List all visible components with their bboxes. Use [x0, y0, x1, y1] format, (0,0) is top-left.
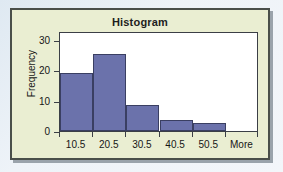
- x-axis: 10.520.530.540.550.5More: [59, 132, 258, 158]
- bars-layer: [60, 33, 257, 131]
- x-tick-mark: [257, 132, 258, 137]
- y-tick-label: 30: [28, 36, 50, 46]
- x-tick-mark: [92, 132, 93, 137]
- x-tick-mark: [59, 132, 60, 137]
- chart-title: Histogram: [12, 16, 268, 28]
- x-tick-mark: [159, 132, 160, 137]
- y-axis: 0102030: [28, 32, 59, 132]
- x-tick-mark: [192, 132, 193, 137]
- histogram-chart-card: Histogram Frequency 0102030 10.520.530.5…: [10, 8, 270, 160]
- x-tick-label: 10.5: [66, 139, 85, 150]
- histogram-bar: [126, 105, 159, 131]
- x-tick-label: 40.5: [165, 139, 184, 150]
- y-tick-label: 20: [28, 66, 50, 76]
- histogram-bar: [60, 73, 93, 131]
- y-axis-title-container: Frequency: [14, 32, 28, 132]
- histogram-bar: [160, 120, 193, 131]
- histogram-bar: [193, 123, 226, 131]
- x-tick-label: 50.5: [199, 139, 218, 150]
- plot-area: [59, 32, 258, 132]
- screenshot-root: Histogram Frequency 0102030 10.520.530.5…: [0, 0, 283, 172]
- histogram-bar: [93, 54, 126, 131]
- y-tick-label: 0: [28, 127, 50, 137]
- x-tick-label: 20.5: [99, 139, 118, 150]
- x-tick-mark: [225, 132, 226, 137]
- x-tick-label: 30.5: [132, 139, 151, 150]
- x-tick-mark: [125, 132, 126, 137]
- y-tick-label: 10: [28, 97, 50, 107]
- x-tick-label: More: [230, 139, 253, 150]
